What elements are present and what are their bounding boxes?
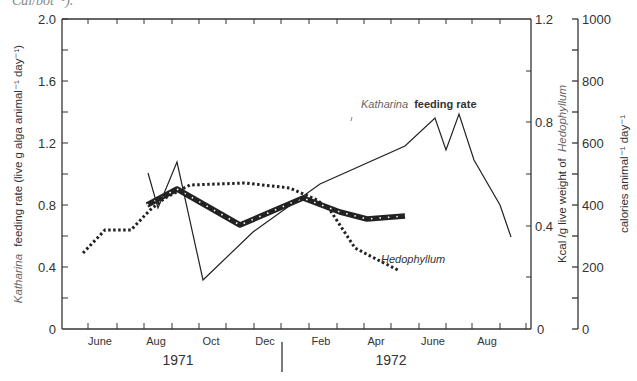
month-label: Dec <box>255 335 275 347</box>
tick-label: 0 <box>582 322 589 337</box>
tick-label: 1.2 <box>535 12 553 27</box>
tick-label: 1000 <box>582 12 611 27</box>
month-label: Oct <box>202 335 219 347</box>
left-axis-title: Katharina feeding rate (live g alga anim… <box>12 45 24 303</box>
tick-label: 2.0 <box>38 12 56 27</box>
month-label: Aug <box>146 335 166 347</box>
tick-label: 0.4 <box>38 260 56 275</box>
month-label: Aug <box>477 335 497 347</box>
month-label: June <box>421 335 445 347</box>
right-outer-axis <box>572 19 578 329</box>
tick-label: 0.8 <box>535 115 553 130</box>
annotation-hedophyllum: Hedophyllum <box>381 253 445 265</box>
chart: 2.0 1.6 1.2 0.8 0.4 0 Katharina feeding … <box>0 0 637 381</box>
right-inner-y-ticks <box>526 71 531 277</box>
left-y-tick-labels: 2.0 1.6 1.2 0.8 0.4 0 <box>38 12 56 337</box>
year-label-1971: 1971 <box>162 352 193 368</box>
right-inner-tick-labels: 1.2 0.8 0.4 0 <box>535 12 553 337</box>
month-label: Feb <box>312 335 331 347</box>
top-ticks <box>88 19 500 24</box>
right-outer-tick-labels: 1000 800 600 400 200 0 <box>582 12 611 337</box>
tick-label: 1.2 <box>38 136 56 151</box>
bottom-ticks <box>88 323 526 329</box>
left-y-ticks <box>62 19 68 298</box>
series-katharina-feeding-rate <box>148 114 511 280</box>
tick-label: 600 <box>582 136 604 151</box>
tick-label: 400 <box>582 198 604 213</box>
right-outer-axis-title: calories animal⁻¹ day⁻¹ <box>618 115 630 233</box>
tick-label: 200 <box>582 260 604 275</box>
tick-label: 1.6 <box>38 74 56 89</box>
tick-label: 800 <box>582 74 604 89</box>
tick-label: 0.8 <box>38 198 56 213</box>
tick-label: 0.4 <box>535 219 553 234</box>
tick-label: 0 <box>49 322 56 337</box>
year-label-1972: 1972 <box>375 352 406 368</box>
month-label: Apr <box>367 335 384 347</box>
tick-label: 0 <box>537 322 544 337</box>
annotation-katharina: Katharina feeding rate <box>361 98 477 110</box>
annotation-tick-mark <box>351 117 352 121</box>
plot-frame <box>62 19 531 329</box>
right-inner-axis-title: Kcal /g live weight of Hedophyllum <box>556 84 568 263</box>
month-label: June <box>88 335 112 347</box>
series-calories <box>147 189 405 225</box>
month-labels: June Aug Oct Dec Feb Apr June Aug <box>88 335 497 347</box>
